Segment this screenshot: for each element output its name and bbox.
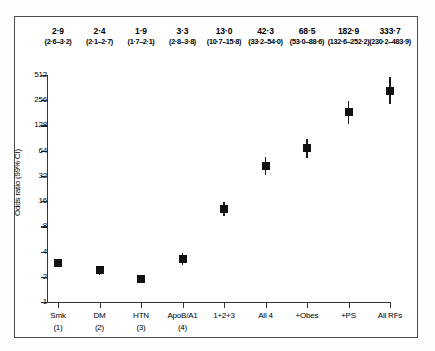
data-point-marker [179, 255, 187, 263]
data-point-marker [345, 108, 353, 116]
y-axis-tick-label: 32 [21, 171, 47, 180]
x-axis-tick [266, 302, 267, 308]
y-axis-line [47, 75, 48, 303]
x-axis-tick [141, 302, 142, 308]
data-point-marker [96, 266, 104, 274]
y-axis-tick-label: 8 [21, 221, 47, 230]
x-axis-tick [58, 302, 59, 308]
y-axis-tick-label: 1 [21, 297, 47, 306]
x-axis-tick [183, 302, 184, 308]
x-label-name: HTN [133, 311, 149, 320]
data-point-marker [137, 275, 145, 283]
x-label-name: Smk [50, 311, 65, 320]
x-axis-tick [390, 302, 391, 308]
y-axis-tick-label: 4 [21, 247, 47, 256]
data-point-marker [386, 87, 394, 95]
x-axis-tick [100, 302, 101, 308]
x-label-name: DM [93, 311, 105, 320]
x-label-name: +Obes [296, 311, 319, 320]
data-point-marker [303, 144, 311, 152]
y-axis-tick-label: 128 [21, 120, 47, 129]
x-label-index: (4) [153, 322, 213, 334]
data-point-marker [262, 162, 270, 170]
data-point-marker [220, 205, 228, 213]
x-label-name: +PS [341, 311, 356, 320]
y-axis-tick-label: 16 [21, 196, 47, 205]
x-label-name: All RFs [378, 311, 402, 320]
y-axis-tick-label: 256 [21, 95, 47, 104]
x-axis-tick [307, 302, 308, 308]
y-axis-tick-label: 512 [21, 70, 47, 79]
y-axis-tick-label: 64 [21, 146, 47, 155]
x-label-name: 1+2+3 [213, 311, 235, 320]
x-label-name: All 4 [258, 311, 273, 320]
y-axis-tick-label: 2 [21, 272, 47, 281]
figure-container: 2·9(2·6–3·2)2·4(2·1–2·7)1·9(1·7–2·1)3·3(… [0, 0, 435, 351]
x-axis-tick-label: All RFs [360, 310, 420, 322]
data-point-marker [54, 259, 62, 267]
x-axis-tick [224, 302, 225, 308]
plot-area: Odds ratio (99% CI) 5122561286432168421 … [0, 0, 435, 351]
x-axis-tick [349, 302, 350, 308]
